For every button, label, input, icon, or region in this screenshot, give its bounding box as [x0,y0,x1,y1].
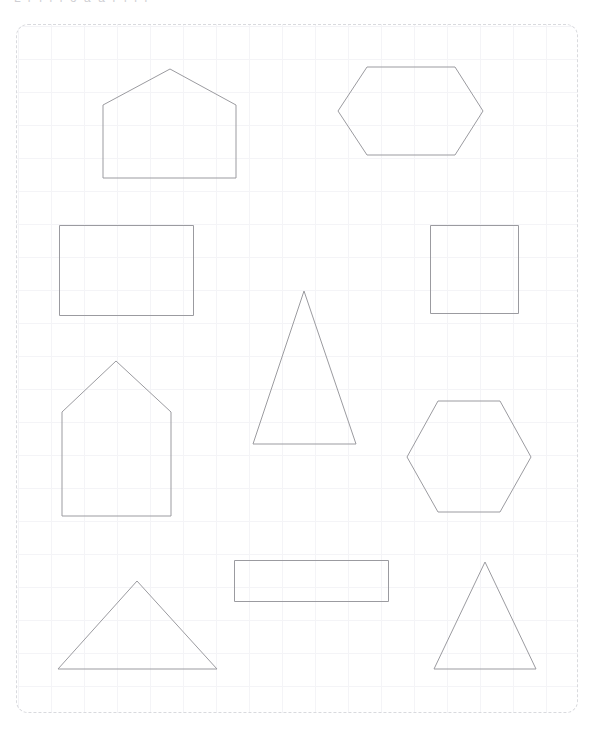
clipped-header-strip: L r l l l o a a r l l r [0,0,594,14]
clipped-header-text: L r l l l o a a r l l r [14,0,151,5]
shape-canvas[interactable] [16,24,578,713]
